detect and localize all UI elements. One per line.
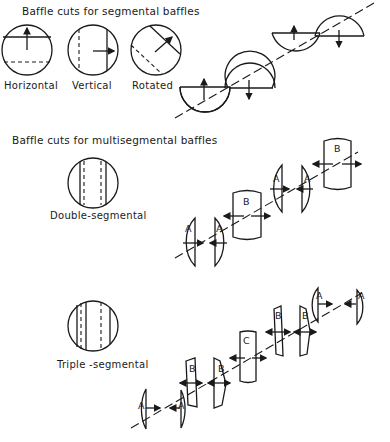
svg-text:A: A xyxy=(178,400,185,411)
svg-text:A: A xyxy=(304,173,311,184)
svg-text:A: A xyxy=(138,400,145,411)
svg-text:B: B xyxy=(275,310,282,321)
double-segmental-chain: A A B A A B xyxy=(175,139,361,267)
svg-text:A: A xyxy=(216,223,223,234)
svg-text:A: A xyxy=(358,290,365,301)
baffle-diagram: A A B A A B A A xyxy=(0,0,390,442)
vertical-cut-icon xyxy=(68,25,118,75)
svg-text:B: B xyxy=(334,143,341,154)
svg-text:A: A xyxy=(185,223,192,234)
rotated-cut-icon xyxy=(131,25,181,75)
svg-text:B: B xyxy=(302,310,309,321)
svg-text:B: B xyxy=(218,363,225,374)
svg-text:A: A xyxy=(273,173,280,184)
svg-text:B: B xyxy=(189,363,196,374)
svg-text:B: B xyxy=(243,196,250,207)
segmental-baffle-chain xyxy=(175,3,374,118)
double-segmental-icon xyxy=(68,158,118,208)
triple-segmental-chain: A A B B C B B A A xyxy=(131,288,365,429)
triple-segmental-icon xyxy=(68,301,118,351)
svg-text:C: C xyxy=(243,335,250,346)
horizontal-cut-icon xyxy=(2,25,52,75)
svg-text:A: A xyxy=(316,290,323,301)
